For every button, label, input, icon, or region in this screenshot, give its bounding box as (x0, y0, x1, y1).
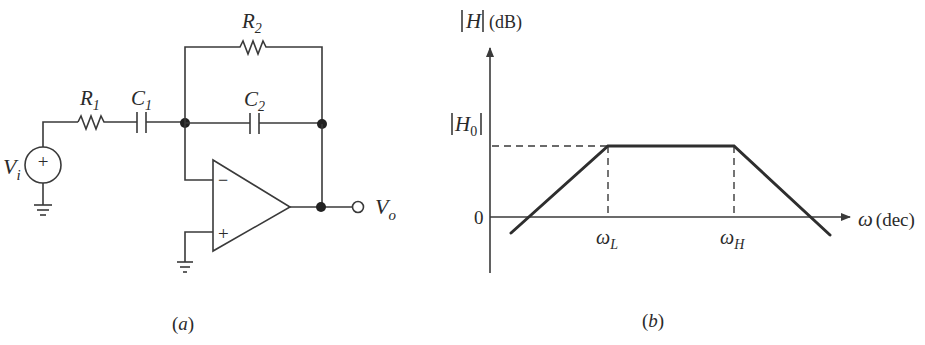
opamp-minus-sign: − (218, 170, 228, 190)
circuit-diagram: + Vi R1 C1 R2 (3, 9, 396, 335)
voltage-source-vi: + (25, 147, 61, 183)
op-amp: − + (213, 160, 290, 251)
y-axis-label: H (dB) (462, 9, 522, 33)
omega-h-tick-label: ωH (720, 226, 745, 252)
r2-label: R2 (241, 9, 262, 36)
source-plus-sign: + (38, 151, 49, 172)
resistor-r1 (78, 116, 137, 129)
output-terminal (353, 202, 364, 213)
opamp-plus-sign: + (218, 223, 229, 244)
capacitor-c2 (185, 113, 322, 134)
zero-tick-label: 0 (474, 207, 484, 228)
caption-a: (a) (172, 313, 194, 335)
h0-tick-label: H0 (452, 112, 481, 139)
c2-label: C2 (244, 87, 265, 114)
vo-label: Vo (375, 194, 396, 223)
svg-text:(dB): (dB) (489, 12, 522, 33)
bode-plot: H (dB) H0 0 ωL ωH ω(dec) (b) (452, 9, 915, 332)
svg-text:H: H (465, 9, 483, 33)
wire-to-inverting-input (185, 123, 213, 180)
vi-label: Vi (3, 154, 21, 183)
figure-canvas: + Vi R1 C1 R2 (0, 0, 925, 345)
magnitude-response-curve (511, 146, 830, 235)
caption-b: (b) (642, 310, 664, 332)
ground-icon (34, 205, 52, 215)
svg-text:H0: H0 (454, 112, 477, 139)
omega-l-tick-label: ωL (596, 226, 618, 252)
capacitor-c1 (137, 112, 185, 133)
resistor-r2 (185, 41, 322, 124)
wire-to-noninverting-input (185, 232, 213, 262)
junction-node-output (316, 202, 326, 212)
x-axis-label: ω(dec) (858, 207, 915, 231)
c1-label: C1 (131, 86, 152, 113)
ground-icon (177, 262, 193, 272)
r1-label: R1 (79, 86, 100, 113)
wire-source-to-r1 (43, 122, 78, 147)
